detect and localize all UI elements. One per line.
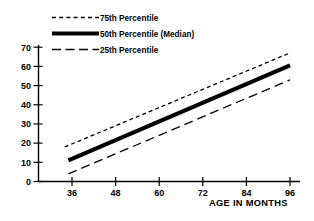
data-series [65,53,290,174]
series-line-p75 [65,53,290,147]
y-tick-label: 30 [21,119,31,129]
x-tick-label: 96 [285,188,295,198]
y-tick-label: 70 [21,43,31,53]
chart-canvas: 75th Percentile 50th Percentile (Median)… [0,0,314,221]
x-axis: 364860728496 [67,177,295,198]
x-tick-label: 48 [111,188,121,198]
y-tick-label: 20 [21,138,31,148]
legend-label-p50: 50th Percentile (Median) [100,30,194,39]
y-tick-label: 0 [26,177,31,187]
x-tick-label: 84 [241,188,251,198]
x-axis-title: AGE IN MONTHS [209,198,288,208]
percentile-growth-chart: 75th Percentile 50th Percentile (Median)… [0,0,314,221]
legend-entry-p50: 50th Percentile (Median) [52,30,194,39]
series-line-p50 [68,65,290,160]
x-tick-label: 36 [67,188,77,198]
legend-label-p25: 25th Percentile [100,46,159,55]
y-tick-label: 60 [21,62,31,72]
y-tick-label: 50 [21,81,31,91]
legend-entry-p25: 25th Percentile [52,46,159,55]
legend-label-p75: 75th Percentile [100,14,159,23]
chart-legend: 75th Percentile 50th Percentile (Median)… [52,14,194,55]
y-tick-label: 40 [21,100,31,110]
series-line-p25 [68,80,290,174]
y-tick-label: 10 [21,158,31,168]
x-tick-label: 60 [154,188,164,198]
x-tick-label: 72 [198,188,208,198]
y-axis: 010203040506070 [21,43,43,187]
legend-entry-p75: 75th Percentile [52,14,159,23]
